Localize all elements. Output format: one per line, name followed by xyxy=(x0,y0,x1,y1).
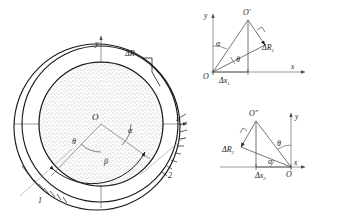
t2-angle-alpha: α xyxy=(268,157,273,166)
main-angle-theta: θ xyxy=(72,137,76,146)
triangle-top-group: O O′ y x α θ ΔR1 Δx1 xyxy=(203,8,305,86)
t1-delta-x-label: Δx1 xyxy=(218,76,230,86)
main-clearance-label: ΔR xyxy=(124,49,135,58)
main-center-label: O xyxy=(92,112,99,122)
t1-right-angle-mark xyxy=(257,27,265,32)
t1-delta-R-vector xyxy=(248,20,265,45)
t2-y-axis-label: y xyxy=(294,112,299,121)
t2-delta-R-label: ΔR2 xyxy=(221,145,235,155)
contact-point-2-label: 2 xyxy=(168,171,172,180)
main-x-axis-label: x xyxy=(175,114,180,123)
t1-origin-label: O xyxy=(203,72,209,81)
t1-angle-theta: θ xyxy=(236,55,240,64)
t2-origin-label: O xyxy=(286,170,292,179)
contact-point-1-label: 1 xyxy=(38,196,42,205)
figure-root: O y x θ α β ΔR 1 2 xyxy=(0,0,337,221)
triangle-bottom-group: O O″ y x θ α ΔR2 Δx2 xyxy=(220,109,305,181)
main-y-axis-label: y xyxy=(94,39,99,48)
t1-y-axis-label: y xyxy=(203,11,208,20)
t2-delta-R-vector xyxy=(241,121,256,147)
t2-apex-label: O″ xyxy=(249,109,259,118)
t2-right-angle-mark xyxy=(240,128,247,133)
t1-apex-label: O′ xyxy=(243,8,251,17)
main-angle-beta: β xyxy=(103,157,108,166)
t1-x-axis-label: x xyxy=(290,62,295,71)
main-diagram-group: O y x θ α β ΔR 1 2 xyxy=(14,36,187,210)
t2-x-axis-label: x xyxy=(293,158,298,167)
t1-delta-R-label: ΔR1 xyxy=(261,43,274,53)
t2-delta-x-label: Δx2 xyxy=(254,171,266,181)
t2-angle-theta: θ xyxy=(277,139,281,148)
figure-canvas: O y x θ α β ΔR 1 2 xyxy=(0,0,337,221)
